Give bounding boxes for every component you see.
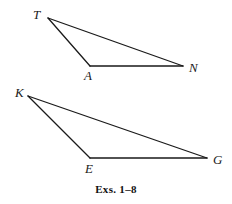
vertex-label-g: G <box>213 153 222 166</box>
edge-K-G <box>28 96 207 158</box>
vertex-label-t: T <box>33 8 40 21</box>
triangles-drawing <box>0 0 232 204</box>
vertex-label-a: A <box>84 69 92 82</box>
vertex-label-e: E <box>85 162 93 175</box>
triangle-tan <box>48 18 183 66</box>
geometry-figure: T A N K E G Exs. 1–8 <box>0 0 232 204</box>
vertex-label-n: N <box>189 61 198 74</box>
figure-caption: Exs. 1–8 <box>0 183 232 195</box>
triangle-keg <box>28 96 207 158</box>
vertex-label-k: K <box>15 86 24 99</box>
edge-K-E <box>28 96 90 158</box>
